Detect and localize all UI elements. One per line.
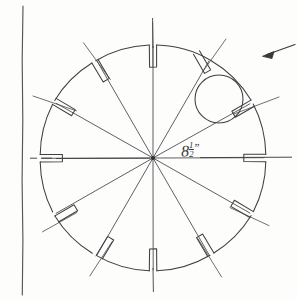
spoke-150 xyxy=(56,103,153,158)
spoke-300 xyxy=(153,158,209,255)
slot-150 xyxy=(53,98,76,115)
projection-300 xyxy=(198,239,222,277)
slot-120 xyxy=(92,59,109,82)
drawing-sheet: 812” xyxy=(0,0,297,300)
spoke-210 xyxy=(56,158,153,213)
center-point xyxy=(151,156,155,160)
spoke-120 xyxy=(97,61,153,158)
technical-drawing xyxy=(0,0,297,300)
spoke-240 xyxy=(97,158,153,255)
inch-mark: ” xyxy=(193,141,199,153)
slot-240 xyxy=(96,236,114,259)
projection-120 xyxy=(84,43,111,80)
leader-arrow xyxy=(263,45,296,59)
projection-lines xyxy=(33,22,279,277)
page-edge-line xyxy=(22,6,23,295)
diameter-dimension-label: 812” xyxy=(181,141,200,161)
projection-210 xyxy=(43,213,77,232)
spoke-330 xyxy=(153,158,250,213)
spoke-30 xyxy=(153,104,250,158)
projection-60 xyxy=(203,39,226,72)
bore-circle xyxy=(195,75,243,123)
projection-330 xyxy=(230,208,269,226)
projection-150 xyxy=(33,96,76,111)
